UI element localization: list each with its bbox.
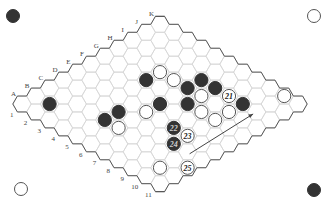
black-stone bbox=[181, 81, 194, 94]
border-top-right bbox=[234, 56, 239, 64]
white-stone bbox=[209, 113, 222, 126]
row-label: 2 bbox=[24, 119, 28, 127]
column-label: J bbox=[135, 18, 138, 26]
row-label: 11 bbox=[145, 191, 152, 199]
row-label: 1 bbox=[10, 111, 14, 119]
border-bottom-right bbox=[275, 120, 280, 128]
move-number: 24 bbox=[169, 140, 178, 149]
column-label: I bbox=[121, 26, 124, 34]
stone-black bbox=[140, 73, 153, 86]
border-top-right bbox=[192, 32, 197, 40]
stone-white-23: 23 bbox=[181, 129, 194, 142]
stone-white bbox=[140, 105, 153, 118]
row-label: 5 bbox=[65, 143, 69, 151]
border-bottom-right bbox=[220, 152, 225, 160]
move-number: 22 bbox=[169, 124, 178, 133]
white-stone bbox=[153, 66, 166, 79]
stone-black bbox=[181, 97, 194, 110]
corner-marker-top-left-black bbox=[7, 10, 20, 23]
border-bottom-right bbox=[289, 112, 294, 120]
black-stone bbox=[236, 97, 249, 110]
white-stone bbox=[222, 105, 235, 118]
stone-white bbox=[195, 89, 208, 102]
column-label: E bbox=[66, 58, 70, 66]
row-label: 10 bbox=[131, 183, 139, 191]
move-number: 21 bbox=[224, 92, 233, 101]
row-label: 7 bbox=[93, 159, 97, 167]
stone-black bbox=[236, 97, 249, 110]
black-stone bbox=[209, 81, 222, 94]
border-bottom-right bbox=[303, 104, 308, 112]
corner-marker-bottom-right-black bbox=[308, 184, 321, 197]
white-stone bbox=[140, 105, 153, 118]
border-top-left bbox=[123, 32, 128, 40]
corner-marker-top-right-white bbox=[308, 10, 321, 23]
column-label: K bbox=[149, 10, 154, 18]
white-stone bbox=[167, 73, 180, 86]
white-stone bbox=[153, 161, 166, 174]
hex-board: ABCDEFGHIJK1234567891011 2122232425 bbox=[0, 0, 334, 208]
border-top-right bbox=[275, 80, 280, 88]
row-label: 8 bbox=[107, 167, 111, 175]
white-stone bbox=[195, 89, 208, 102]
stone-white bbox=[278, 89, 291, 102]
stone-white-25: 25 bbox=[181, 161, 194, 174]
column-label: C bbox=[39, 74, 44, 82]
black-stone bbox=[140, 73, 153, 86]
stone-black bbox=[181, 81, 194, 94]
stone-white-21: 21 bbox=[222, 89, 235, 102]
border-bottom-right bbox=[234, 144, 239, 152]
stone-black bbox=[98, 113, 111, 126]
border-bottom-right bbox=[165, 184, 170, 192]
border-top-right bbox=[303, 96, 308, 104]
border-bottom-right bbox=[206, 160, 211, 168]
move-number: 25 bbox=[183, 164, 192, 173]
black-stone bbox=[43, 97, 56, 110]
stone-black-24: 24 bbox=[167, 137, 180, 150]
white-stone bbox=[112, 121, 125, 134]
black-stone bbox=[153, 97, 166, 110]
stone-white bbox=[153, 161, 166, 174]
black-stone bbox=[181, 97, 194, 110]
stone-black bbox=[209, 81, 222, 94]
black-stone bbox=[195, 73, 208, 86]
stone-white bbox=[222, 105, 235, 118]
column-label: F bbox=[80, 50, 84, 58]
border-top-right bbox=[165, 16, 170, 24]
border-bottom-right bbox=[261, 128, 266, 136]
stone-white bbox=[209, 113, 222, 126]
border-bottom-right bbox=[178, 176, 183, 184]
stone-black bbox=[43, 97, 56, 110]
white-stone bbox=[278, 89, 291, 102]
column-label: G bbox=[94, 42, 99, 50]
row-label: 6 bbox=[79, 151, 83, 159]
stone-white bbox=[195, 105, 208, 118]
column-label: D bbox=[52, 66, 57, 74]
border-top-right bbox=[220, 48, 225, 56]
border-top-right bbox=[206, 40, 211, 48]
coordinate-labels: ABCDEFGHIJK1234567891011 bbox=[10, 10, 154, 198]
stone-black bbox=[195, 73, 208, 86]
black-stone bbox=[98, 113, 111, 126]
border-top-right bbox=[261, 72, 266, 80]
corner-marker-bottom-left-white bbox=[15, 183, 28, 196]
black-stone bbox=[112, 105, 125, 118]
stone-black bbox=[153, 97, 166, 110]
border-bottom-right bbox=[247, 136, 252, 144]
column-label: B bbox=[25, 82, 30, 90]
row-label: 4 bbox=[51, 135, 55, 143]
row-label: 3 bbox=[38, 127, 42, 135]
stone-white bbox=[153, 66, 166, 79]
stone-white bbox=[167, 73, 180, 86]
stone-black-22: 22 bbox=[167, 121, 180, 134]
row-label: 9 bbox=[120, 175, 124, 183]
stone-black bbox=[112, 105, 125, 118]
stone-white bbox=[112, 121, 125, 134]
move-number: 23 bbox=[183, 132, 192, 141]
white-stone bbox=[195, 105, 208, 118]
border-top-right bbox=[178, 24, 183, 32]
border-top-right bbox=[247, 64, 252, 72]
column-label: H bbox=[108, 34, 113, 42]
column-label: A bbox=[11, 90, 16, 98]
